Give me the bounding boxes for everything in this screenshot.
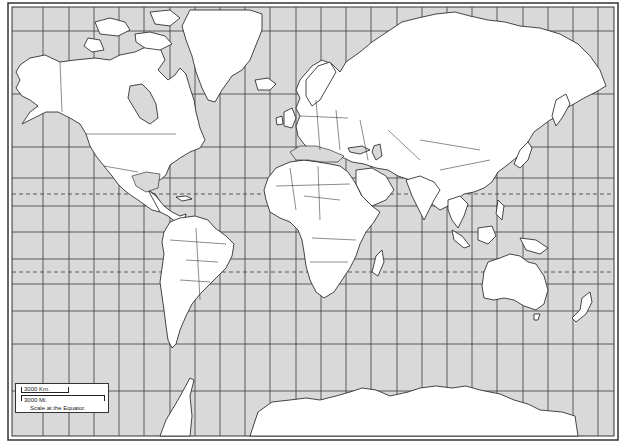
scale-caption: Scale at the Equator. [30, 405, 86, 411]
scale-km-label: 3000 Km. [24, 386, 50, 392]
scale-bar-km: 3000 Km. [21, 387, 69, 393]
world-map: 3000 Km. 3000 Mi. Scale at the Equator. [0, 0, 624, 442]
ireland [276, 116, 283, 125]
scale-bar-mi: 3000 Mi. [21, 395, 105, 401]
scale-legend: 3000 Km. 3000 Mi. Scale at the Equator. [15, 383, 109, 413]
map-canvas [0, 0, 624, 442]
scale-mi-label: 3000 Mi. [24, 397, 47, 403]
